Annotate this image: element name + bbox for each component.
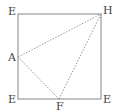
label-a: A xyxy=(7,51,17,64)
square xyxy=(18,14,101,99)
geometry-diagram: E H E E A F xyxy=(0,0,113,111)
segment-a-f xyxy=(18,57,59,99)
label-bottom-right: E xyxy=(103,93,111,106)
segment-a-h xyxy=(18,14,101,57)
segment-f-h xyxy=(59,14,101,99)
label-top-right: H xyxy=(103,4,113,17)
label-bottom-left: E xyxy=(8,93,16,106)
label-f: F xyxy=(56,100,64,111)
label-top-left: E xyxy=(8,5,16,18)
